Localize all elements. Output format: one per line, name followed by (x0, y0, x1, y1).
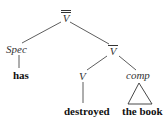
node-comp: comp (126, 70, 150, 81)
bar-overline-1 (61, 10, 71, 11)
edge-root-spec (22, 22, 61, 43)
leaf-has: has (13, 70, 29, 81)
edge-vbar-v (87, 56, 107, 70)
edge-vbar-comp (119, 56, 136, 70)
node-v-bar: V (108, 46, 118, 57)
bar-overline-2 (61, 12, 71, 13)
triangle-icon (128, 83, 152, 104)
bar-overline (108, 45, 118, 46)
leaf-the-book: the book (122, 106, 163, 117)
node-v: V (79, 71, 86, 82)
node-spec: Spec (6, 44, 27, 55)
edge-root-vbar (70, 22, 109, 44)
leaf-destroyed: destroyed (64, 106, 110, 117)
node-v-double-bar: V (61, 13, 71, 24)
